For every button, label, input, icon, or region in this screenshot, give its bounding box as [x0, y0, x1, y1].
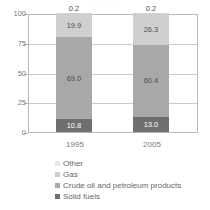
legend-item-label: Other — [63, 159, 83, 168]
y-axis-tick-label: 50 — [4, 70, 26, 78]
bar-segment-value-label: 26.3 — [133, 25, 169, 34]
y-axis-tick-label: 75 — [4, 40, 26, 48]
legend-swatch-icon — [55, 172, 60, 177]
legend-item[interactable]: Crude oil and petroleum products — [55, 180, 205, 191]
chart-legend: OtherGasCrude oil and petroleum products… — [55, 158, 205, 202]
legend-swatch-icon — [55, 183, 60, 188]
bar-segment-value-label: 13.0 — [133, 120, 169, 129]
bar-segment[interactable]: 19.9 — [56, 13, 92, 37]
y-axis-tick-label: 25 — [4, 99, 26, 107]
bar-segment[interactable]: 69.0 — [56, 37, 92, 119]
bar-segment-value-label: 0.2 — [56, 4, 92, 13]
legend-swatch-icon — [55, 194, 60, 199]
bar-segment[interactable]: 10.8 — [56, 119, 92, 132]
bar-segment[interactable]: 60.4 — [133, 45, 169, 117]
bar-segment-value-label: 19.9 — [56, 21, 92, 30]
plot-area: 0.219.969.010.80.226.360.413.0 — [28, 14, 198, 133]
legend-item-label: Gas — [63, 170, 78, 179]
bar-group-1995[interactable]: 0.219.969.010.8 — [56, 13, 92, 132]
legend-swatch-icon — [55, 161, 60, 166]
stacked-bar-chart: · · · · · · · · · 0255075100 0.219.969.0… — [0, 0, 210, 210]
gridline — [29, 103, 197, 104]
legend-item-label: Solid fuels — [63, 192, 100, 201]
x-axis-tick-label-1995: 1995 — [45, 140, 105, 150]
bar-segment[interactable]: 26.3 — [133, 13, 169, 44]
bar-segment[interactable]: 13.0 — [133, 117, 169, 132]
y-axis-tick-label: 0 — [4, 129, 26, 137]
gridline — [29, 44, 197, 45]
gridline — [29, 74, 197, 75]
bar-group-2005[interactable]: 0.226.360.413.0 — [133, 13, 169, 132]
legend-item[interactable]: Gas — [55, 169, 205, 180]
bar-segment-value-label: 10.8 — [56, 121, 92, 130]
legend-item[interactable]: Solid fuels — [55, 191, 205, 202]
x-axis-tick-label-2005: 2005 — [122, 140, 182, 150]
y-axis-tick-label: 100 — [4, 10, 26, 18]
bar-segment-value-label: 0.2 — [133, 4, 169, 13]
bar-segment-value-label: 60.4 — [133, 76, 169, 85]
legend-item-label: Crude oil and petroleum products — [63, 181, 181, 190]
chart-title-remnant: · · · · · · · · · — [0, 0, 210, 7]
bar-segment-value-label: 69.0 — [56, 74, 92, 83]
legend-item[interactable]: Other — [55, 158, 205, 169]
